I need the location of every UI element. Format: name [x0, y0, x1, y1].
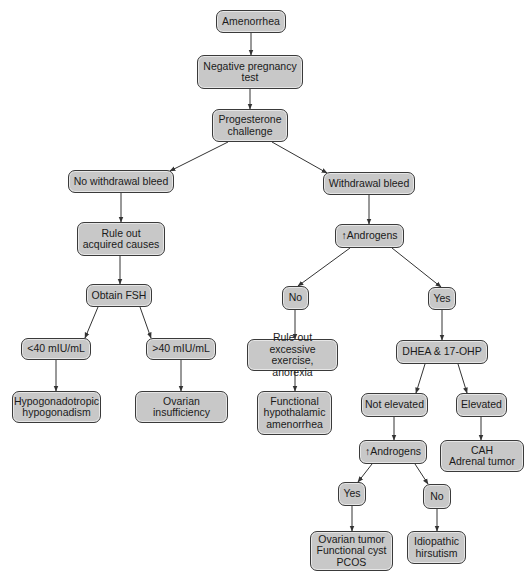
node-yes2: Yes — [338, 482, 366, 506]
node-idiopathic: Idiopathic hirsutism — [407, 531, 466, 564]
edge-obtain_fsh-to-lt40-arrow — [85, 307, 98, 338]
node-ovarian-tumor: Ovarian tumor Functional cyst PCOS — [310, 531, 393, 571]
node-androgens1: ↑Androgens — [335, 224, 404, 248]
node-cah: CAH Adrenal tumor — [440, 440, 524, 472]
node-yes1: Yes — [428, 287, 456, 310]
node-obtain-fsh: Obtain FSH — [86, 284, 152, 307]
node-no-withdrawal: No withdrawal bleed — [68, 170, 174, 193]
edge-progesterone-to-no_withdrawal-arrow — [170, 142, 228, 171]
node-fha: Functional hypothalamic amenorrhea — [257, 391, 332, 435]
node-lt40: <40 mIU/mL — [21, 338, 91, 360]
node-amenorrhea: Amenorrhea — [216, 10, 286, 33]
node-elevated: Elevated — [456, 393, 507, 417]
node-androgens2: ↑Androgens — [359, 440, 427, 464]
edge-androgens1-to-yes1-arrow — [392, 248, 441, 287]
node-progesterone: Progesterone challenge — [212, 109, 288, 142]
node-withdrawal: Withdrawal bleed — [323, 172, 415, 195]
edge-androgens2-to-yes2-arrow — [358, 464, 372, 482]
node-rule-out-exercise: Rule out excessive exercise, anorexia — [247, 339, 338, 371]
flowchart-canvas: AmenorrheaNegative pregnancy testProgest… — [0, 0, 532, 578]
node-hypogonadotropic: Hypogonadotropic hypogonadism — [12, 391, 101, 423]
edge-obtain_fsh-to-gt40-arrow — [140, 307, 151, 338]
node-ovarian-insufficiency: Ovarian insufficiency — [135, 391, 228, 423]
node-no2: No — [423, 484, 451, 509]
edge-androgens2-to-no2-arrow — [415, 464, 428, 484]
edge-dhea-to-not_elevated-arrow — [416, 364, 425, 393]
node-neg-preg: Negative pregnancy test — [197, 55, 303, 89]
edge-dhea-to-elevated-arrow — [458, 364, 467, 393]
node-rule-out-acquired: Rule out acquired causes — [77, 222, 165, 256]
edge-progesterone-to-withdrawal-arrow — [272, 142, 327, 173]
node-not-elevated: Not elevated — [361, 393, 428, 417]
edge-androgens1-to-no1-arrow — [298, 248, 350, 286]
node-gt40: >40 mIU/mL — [146, 338, 216, 360]
node-dhea: DHEA & 17-OHP — [396, 340, 488, 364]
node-no1: No — [282, 286, 309, 310]
